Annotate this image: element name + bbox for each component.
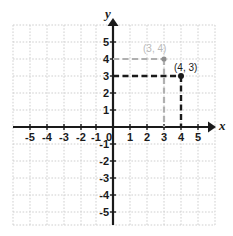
point-marker-4-3 bbox=[178, 73, 184, 79]
point-marker-3-4 bbox=[161, 56, 166, 61]
y-tick-label--4: -4 bbox=[88, 190, 109, 201]
y-tick-label-1: 1 bbox=[95, 105, 109, 116]
coordinate-plane-figure: y x -5 -4 -3 -2 -1 0 1 2 3 4 5 5 4 3 2 1… bbox=[0, 0, 233, 236]
y-tick-label--2: -2 bbox=[88, 156, 109, 167]
point-label-3-4: (3, 4) bbox=[143, 43, 166, 54]
x-tick-label-1: 1 bbox=[124, 132, 136, 143]
y-tick-label--3: -3 bbox=[88, 173, 109, 184]
x-tick-label-2: 2 bbox=[141, 132, 153, 143]
y-tick-label-3: 3 bbox=[95, 71, 109, 82]
plot-graphics bbox=[0, 0, 233, 236]
x-tick-label-4: 4 bbox=[175, 132, 187, 143]
y-tick-label--1: -1 bbox=[88, 139, 109, 150]
y-tick-label--5: -5 bbox=[88, 207, 109, 218]
x-tick-label-5: 5 bbox=[192, 132, 204, 143]
point-label-4-3: (4, 3) bbox=[174, 62, 197, 73]
y-axis-label: y bbox=[105, 6, 111, 22]
y-tick-label-4: 4 bbox=[95, 54, 109, 65]
axis-lines bbox=[13, 18, 216, 225]
y-tick-label-5: 5 bbox=[95, 37, 109, 48]
y-tick-label-2: 2 bbox=[95, 88, 109, 99]
x-axis-label: x bbox=[219, 118, 226, 134]
x-tick-label-3: 3 bbox=[158, 132, 170, 143]
